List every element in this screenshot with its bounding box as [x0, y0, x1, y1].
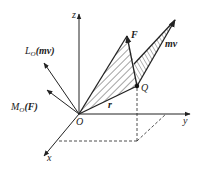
angular-momentum-vector — [44, 63, 79, 114]
y-axis-label: y — [182, 115, 188, 126]
z-axis-label: z — [71, 9, 76, 20]
momentum-label: mv — [165, 38, 178, 49]
origin-label: O — [76, 116, 83, 127]
moment-diagram: z y x O F mv r Q LO(mv) MO(F) — [0, 0, 200, 170]
point-q-label: Q — [141, 82, 149, 93]
point-q-marker — [135, 84, 139, 88]
x-axis-label: x — [46, 152, 52, 163]
x-axis — [44, 114, 79, 156]
momentum-vector — [137, 20, 175, 86]
position-label: r — [108, 99, 112, 110]
force-label: F — [130, 29, 138, 40]
angular-momentum-label: LO(mv) — [24, 45, 55, 58]
moment-of-force-vector — [47, 90, 79, 114]
angular-momentum-label-arg: (mv) — [36, 45, 55, 57]
moment-of-force-label: MO(F) — [10, 101, 38, 114]
moment-of-force-label-arg: (F) — [24, 101, 37, 113]
